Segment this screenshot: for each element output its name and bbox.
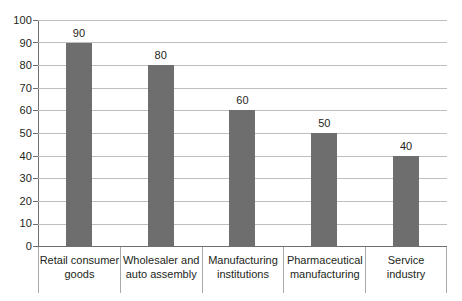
bar-value-label: 40 <box>400 141 412 152</box>
y-tick-label-80: 80 <box>0 60 32 71</box>
bar-value-label: 60 <box>236 95 248 106</box>
bar-service-industry[interactable] <box>393 156 419 246</box>
y-axis-tick-labels: 100 90 80 70 60 50 40 30 20 10 0 <box>0 0 32 301</box>
x-axis-category-pharmaceutical-manufacturing: Pharmaceutical manufacturing <box>283 247 365 293</box>
bar-group-retail-consumer-goods[interactable]: 90 <box>38 20 120 246</box>
bar-wholesaler-and-auto-assembly[interactable] <box>148 65 174 246</box>
x-axis-category-retail-consumer-goods: Retail consumer goods <box>38 247 120 293</box>
y-tick-label-90: 90 <box>0 38 32 49</box>
bar-group-manufacturing-institutions[interactable]: 60 <box>202 20 284 246</box>
y-tick-label-20: 20 <box>0 196 32 207</box>
y-tick-label-50: 50 <box>0 128 32 139</box>
y-tick-label-10: 10 <box>0 218 32 229</box>
category-label: Retail consumer goods <box>40 254 119 281</box>
y-tick-label-40: 40 <box>0 151 32 162</box>
bar-pharmaceutical-manufacturing[interactable] <box>311 133 337 246</box>
bar-retail-consumer-goods[interactable] <box>66 43 92 246</box>
bar-value-label: 80 <box>155 50 167 61</box>
y-tick-label-70: 70 <box>0 83 32 94</box>
bar-chart: 100 90 80 70 60 50 40 30 20 10 0 <box>0 0 462 301</box>
bar-series: 90 80 60 50 40 <box>38 20 447 246</box>
y-tick-label-30: 30 <box>0 173 32 184</box>
category-label: Pharmaceutical manufacturing <box>287 254 363 281</box>
category-label: Manufacturing institutions <box>208 254 278 281</box>
bar-value-label: 90 <box>73 28 85 39</box>
bar-group-pharmaceutical-manufacturing[interactable]: 50 <box>283 20 365 246</box>
bar-value-label: 50 <box>318 118 330 129</box>
y-tick-label-100: 100 <box>0 15 32 26</box>
bar-group-service-industry[interactable]: 40 <box>365 20 447 246</box>
y-tick-label-0: 0 <box>0 241 32 252</box>
y-tick-label-60: 60 <box>0 105 32 116</box>
bar-manufacturing-institutions[interactable] <box>229 110 255 246</box>
bar-group-wholesaler-and-auto-assembly[interactable]: 80 <box>120 20 202 246</box>
x-axis-category-wholesaler-and-auto-assembly: Wholesaler and auto assembly <box>120 247 202 293</box>
category-label: Service industry <box>387 254 426 281</box>
x-axis-category-service-industry: Service industry <box>365 247 447 293</box>
category-label: Wholesaler and auto assembly <box>123 254 199 281</box>
x-axis-category-band: Retail consumer goods Wholesaler and aut… <box>38 247 447 293</box>
x-axis-category-manufacturing-institutions: Manufacturing institutions <box>202 247 284 293</box>
